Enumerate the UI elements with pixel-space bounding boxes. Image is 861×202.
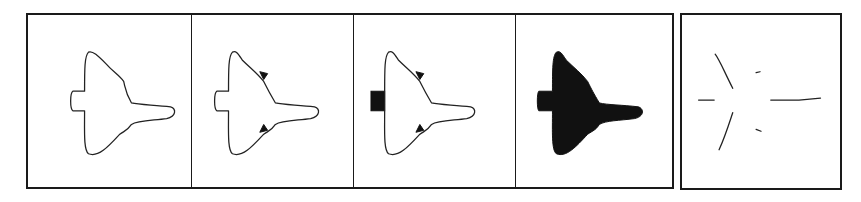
line-segment (756, 129, 761, 131)
shuttle-outline-tail-icon (354, 15, 515, 187)
shuttle-outline-markers-icon (192, 15, 353, 187)
shuttle-filled-icon (516, 15, 672, 187)
panel-outline: Outline contour (28, 15, 191, 187)
panel-line-segments: Extracted line segments (680, 13, 842, 190)
line-segment (715, 54, 733, 88)
panel-strip: Outline contour Outline with wing notch … (26, 13, 674, 189)
line-segment (756, 72, 760, 73)
line-segment (771, 98, 821, 100)
shuttle-outline-icon (28, 15, 191, 187)
panel-outline-markers: Outline with wing notch markers (191, 15, 353, 187)
line-segments-icon (682, 15, 840, 188)
notch-marker (416, 124, 424, 132)
panel-filled: Filled silhouette (515, 15, 672, 187)
notch-marker (260, 124, 268, 132)
tail-block (371, 91, 385, 111)
line-segment (719, 113, 733, 150)
panel-outline-tail-block: Outline with tail block and notch marker… (353, 15, 515, 187)
